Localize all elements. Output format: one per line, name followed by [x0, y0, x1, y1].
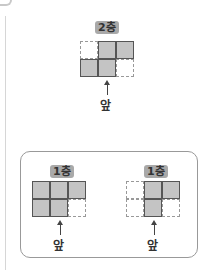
- cell: [162, 199, 180, 217]
- cell: [80, 41, 98, 59]
- cell: [32, 199, 50, 217]
- cell: [144, 181, 162, 199]
- cell: [162, 181, 180, 199]
- cell: [98, 59, 116, 77]
- floor-label-1-right: 1층: [144, 165, 168, 178]
- corner-mark: [0, 0, 12, 6]
- side-rule: [5, 16, 6, 270]
- cell: [116, 59, 134, 77]
- front-label: 앞: [53, 236, 64, 253]
- cell: [144, 199, 162, 217]
- front-label: 앞: [147, 236, 158, 253]
- arrow-up-icon: [107, 84, 108, 95]
- arrow-up-icon: [60, 224, 61, 235]
- cell: [68, 181, 86, 199]
- cell: [116, 41, 134, 59]
- cell: [68, 199, 86, 217]
- front-label: 앞: [100, 96, 111, 113]
- floor-label-2: 2층: [95, 21, 119, 34]
- cell: [126, 199, 144, 217]
- cell: [50, 181, 68, 199]
- cell: [32, 181, 50, 199]
- cell: [80, 59, 98, 77]
- cell: [98, 41, 116, 59]
- cell: [126, 181, 144, 199]
- arrow-up-icon: [154, 224, 155, 235]
- floor-label-1-left: 1층: [50, 165, 74, 178]
- cell: [50, 199, 68, 217]
